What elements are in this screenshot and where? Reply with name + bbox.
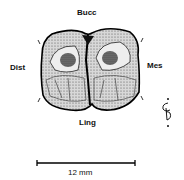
label-lingual: Ling <box>79 118 96 127</box>
tooth-illustration <box>0 0 184 180</box>
scale-bar-label: 12 mm <box>68 168 92 177</box>
label-mesial: Mes <box>147 61 163 70</box>
orientation-glyph-icon <box>163 98 171 126</box>
scale-bar <box>37 160 135 166</box>
label-distal: Dist <box>10 63 25 72</box>
label-buccal: Bucc <box>77 8 97 17</box>
